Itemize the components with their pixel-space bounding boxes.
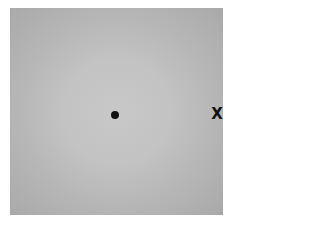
- target-x-icon: X: [211, 106, 223, 122]
- fixation-dot-icon: [111, 111, 119, 119]
